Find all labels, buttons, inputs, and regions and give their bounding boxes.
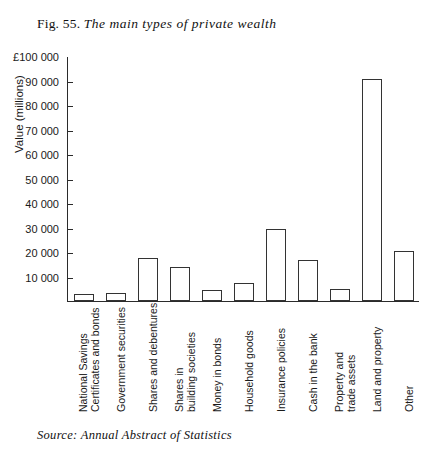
category-label-line: National Savings — [78, 308, 90, 412]
bar — [298, 260, 318, 301]
category-label: Household goods — [244, 330, 256, 412]
y-axis-tick-label: 50 000 — [0, 174, 59, 185]
category-label: Property andtrade assets — [334, 352, 357, 412]
category-label-line: Property and — [334, 352, 346, 412]
y-axis-tick-label: £100 000 — [0, 52, 59, 63]
y-axis-tick-label: 30 000 — [0, 223, 59, 234]
category-label: Shares and debentures — [148, 303, 160, 412]
y-axis-tick-label: 60 000 — [0, 150, 59, 161]
y-axis-tick-label: 90 000 — [0, 76, 59, 87]
category-label-line: Insurance policies — [276, 328, 288, 412]
category-label-line: trade assets — [346, 352, 358, 412]
bar — [234, 283, 254, 301]
y-axis-tick-label: 80 000 — [0, 101, 59, 112]
bar — [170, 267, 190, 301]
category-label: Government securities — [116, 307, 128, 412]
category-label: Land and property — [372, 327, 384, 412]
x-axis-category-labels: National SavingsCertificates and bondsGo… — [68, 304, 420, 416]
bar — [394, 251, 414, 301]
category-label: Other — [404, 386, 416, 412]
bar — [362, 79, 382, 301]
category-label-line: building societies — [186, 332, 198, 412]
category-label-line: Shares and debentures — [148, 303, 160, 412]
bar — [266, 229, 286, 301]
bar-series — [68, 57, 419, 301]
x-axis-line — [67, 301, 419, 302]
source-note: Source: Annual Abstract of Statistics — [37, 428, 232, 443]
figure-number: Fig. 55. — [37, 16, 80, 31]
category-label-line: Certificates and bonds — [90, 308, 102, 412]
category-label: Insurance policies — [276, 328, 288, 412]
chart-plot-area: £100 00090 00080 00070 00060 00050 00040… — [67, 57, 419, 302]
figure-caption: Fig. 55. The main types of private wealt… — [37, 16, 276, 32]
category-label: National SavingsCertificates and bonds — [78, 308, 101, 412]
y-axis-title: Value (millions) — [13, 75, 25, 153]
y-axis-tick-label: 10 000 — [0, 272, 59, 283]
category-label-line: Household goods — [244, 330, 256, 412]
category-label-line: Shares in — [174, 332, 186, 412]
bar — [330, 289, 350, 301]
bar — [74, 294, 94, 301]
category-label-line: Other — [404, 386, 416, 412]
figure-title: The main types of private wealth — [84, 16, 277, 31]
category-label-line: Government securities — [116, 307, 128, 412]
y-axis-tick-label: 40 000 — [0, 199, 59, 210]
category-label-line: Cash in the bank — [308, 333, 320, 412]
bar — [202, 290, 222, 301]
category-label: Shares inbuilding societies — [174, 332, 197, 412]
category-label-line: Money in bonds — [212, 338, 224, 412]
category-label: Cash in the bank — [308, 333, 320, 412]
bar — [138, 258, 158, 301]
bar — [106, 293, 126, 301]
category-label: Money in bonds — [212, 338, 224, 412]
category-label-line: Land and property — [372, 327, 384, 412]
y-axis-tick-label: 20 000 — [0, 248, 59, 259]
y-axis-tick-label: 70 000 — [0, 125, 59, 136]
